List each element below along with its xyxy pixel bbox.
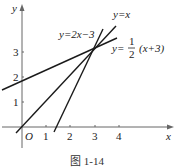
y-axis-label: y (11, 2, 17, 14)
function-graph: 1 2 3 4 1 2 3 O x y y=x y=2x−3 y= 1 2 (x… (0, 0, 177, 168)
x-tick-1: 1 (43, 130, 49, 142)
y-axis-arrow-icon (20, 4, 25, 11)
label-y-equals-half-x-plus-3: y= 1 2 (x+3) (111, 35, 164, 60)
origin-label: O (25, 130, 33, 142)
svg-text:1: 1 (129, 35, 135, 47)
x-tick-2: 2 (67, 130, 73, 142)
ticks (22, 52, 119, 127)
y-tick-1: 1 (13, 96, 19, 108)
figure-caption: 图 1-14 (70, 155, 104, 167)
svg-text:y=: y= (111, 42, 124, 54)
x-tick-4: 4 (116, 130, 122, 142)
x-axis-label: x (165, 130, 171, 142)
line-y-equals-x (16, 26, 116, 133)
x-tick-3: 3 (92, 130, 98, 142)
svg-text:(x+3): (x+3) (139, 42, 164, 55)
line-y-equals-half-x-plus-3 (2, 38, 117, 90)
label-y-equals-2x-minus-3: y=2x−3 (58, 28, 95, 40)
label-y-equals-x: y=x (112, 8, 130, 20)
y-tick-2: 2 (13, 71, 19, 83)
x-axis-arrow-icon (167, 125, 174, 130)
y-tick-3: 3 (13, 46, 19, 58)
line-y-equals-2x-minus-3 (54, 29, 103, 132)
svg-text:2: 2 (129, 48, 135, 60)
